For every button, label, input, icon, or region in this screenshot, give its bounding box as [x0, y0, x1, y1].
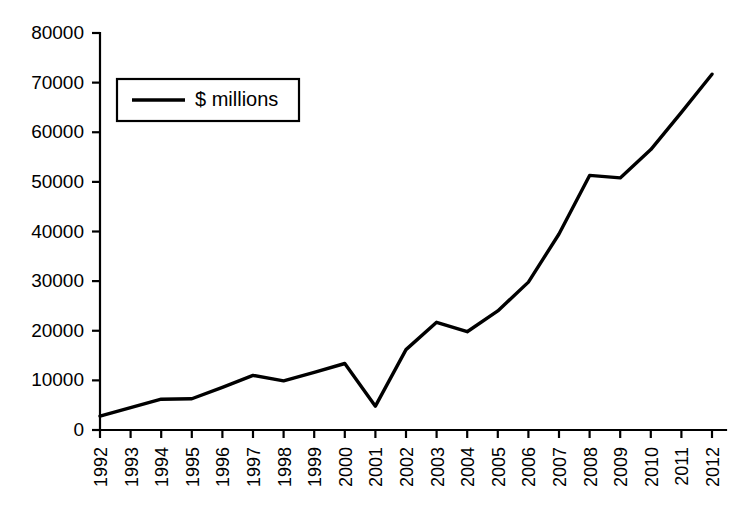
y-tick-label: 40000 [31, 221, 84, 242]
y-tick-label: 20000 [31, 320, 84, 341]
x-tick-label: 2011 [672, 447, 692, 486]
x-tick-label: 2012 [703, 447, 723, 487]
x-tick-label: 2010 [642, 447, 662, 487]
chart-container: 0100002000030000400005000060000700008000… [0, 0, 741, 507]
y-tick-label: 60000 [31, 121, 84, 142]
y-tick-label: 10000 [31, 369, 84, 390]
x-tick-label: 1999 [305, 447, 325, 487]
x-tick-label: 2004 [458, 447, 478, 487]
chart-legend: $ millions [117, 79, 299, 121]
x-tick-label: 2002 [397, 447, 417, 487]
y-tick-label: 0 [73, 419, 84, 440]
x-tick-label: 1996 [213, 447, 233, 487]
x-tick-label: 1992 [91, 447, 111, 487]
y-tick-label: 70000 [31, 72, 84, 93]
x-tick-label: 2000 [336, 447, 356, 487]
x-tick-label: 1998 [275, 447, 295, 487]
y-tick-label: 50000 [31, 171, 84, 192]
x-tick-label: 1997 [244, 447, 264, 487]
x-tick-label: 2007 [550, 447, 570, 487]
x-tick-label: 1995 [183, 447, 203, 487]
legend-label: $ millions [195, 88, 278, 110]
line-chart: 0100002000030000400005000060000700008000… [0, 0, 741, 507]
y-tick-label: 80000 [31, 22, 84, 43]
x-tick-label: 2005 [489, 447, 509, 487]
x-tick-label: 2006 [519, 447, 539, 487]
y-tick-label: 30000 [31, 270, 84, 291]
x-tick-label: 1993 [122, 447, 142, 487]
x-tick-label: 2001 [366, 447, 386, 487]
x-tick-label: 2009 [611, 447, 631, 487]
x-tick-label: 2008 [581, 447, 601, 487]
x-tick-label: 2003 [428, 447, 448, 487]
x-tick-label: 1994 [152, 447, 172, 487]
